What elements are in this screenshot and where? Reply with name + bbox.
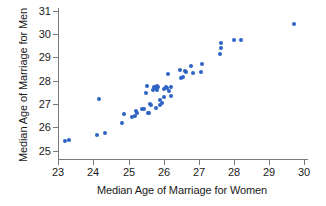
data-point bbox=[67, 138, 71, 142]
data-point bbox=[239, 38, 243, 42]
data-point bbox=[169, 85, 173, 89]
data-point bbox=[166, 72, 170, 76]
data-point bbox=[145, 84, 149, 88]
data-point bbox=[160, 101, 164, 105]
data-point bbox=[178, 68, 182, 72]
data-point bbox=[181, 75, 185, 79]
data-point bbox=[95, 133, 99, 137]
data-point bbox=[122, 112, 126, 116]
data-point bbox=[156, 85, 160, 89]
data-point bbox=[189, 64, 193, 68]
data-point bbox=[120, 121, 124, 125]
data-points-layer bbox=[0, 0, 326, 206]
data-point bbox=[162, 95, 166, 99]
data-point bbox=[169, 94, 173, 98]
data-point bbox=[167, 89, 171, 93]
data-point bbox=[184, 70, 188, 74]
data-point bbox=[232, 38, 236, 42]
data-point bbox=[135, 111, 139, 115]
data-point bbox=[292, 22, 296, 26]
data-point bbox=[199, 70, 203, 74]
scatter-chart: Median Age of Marriage for Men Median Ag… bbox=[0, 0, 326, 206]
data-point bbox=[219, 41, 223, 45]
data-point bbox=[219, 46, 223, 50]
data-point bbox=[200, 62, 204, 66]
data-point bbox=[191, 71, 195, 75]
data-point bbox=[147, 111, 151, 115]
data-point bbox=[103, 131, 107, 135]
data-point bbox=[218, 52, 222, 56]
data-point bbox=[97, 97, 101, 101]
data-point bbox=[144, 91, 148, 95]
data-point bbox=[149, 103, 153, 107]
